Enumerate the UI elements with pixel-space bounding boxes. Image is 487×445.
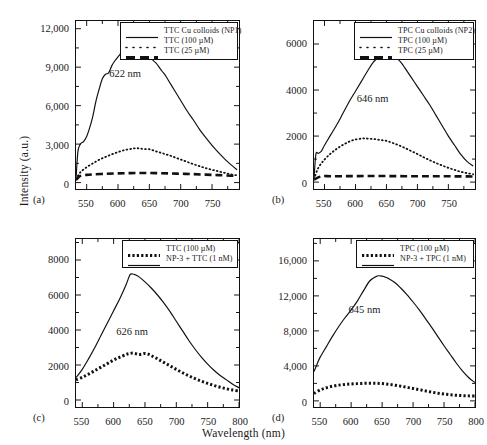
- legend-item: TPC Cu colloids (NP2): [359, 26, 468, 36]
- series-line: [76, 274, 239, 388]
- x-tick-label: 600: [343, 416, 359, 427]
- legend-item: NP-3 + TTC (1 nM): [127, 254, 232, 264]
- series-line: [314, 276, 475, 383]
- panel-label: (c): [33, 412, 45, 423]
- y-tick-label: 2000: [0, 360, 75, 371]
- series-line: [76, 353, 239, 391]
- x-tick-label: 550: [78, 198, 94, 209]
- legend-item: TTC (25 µM): [125, 46, 232, 56]
- x-tick-label: 600: [347, 198, 363, 209]
- y-tick-label: 3,000: [0, 139, 75, 150]
- legend-label: NP-3 + TTC (1 nM): [166, 254, 233, 264]
- legend-swatch-dotted-thick-icon: [361, 245, 395, 254]
- figure-x-axis-label: Wavelength (nm): [0, 427, 487, 439]
- legend-label: TTC (100 µM): [166, 244, 215, 254]
- legend: TTC (100 µM)NP-3 + TTC (1 nM): [122, 240, 238, 268]
- panel-label: (d): [272, 412, 284, 423]
- x-tick-label: 700: [410, 198, 426, 209]
- x-tick-label: 700: [173, 198, 189, 209]
- y-tick-label: 12,000: [0, 22, 75, 33]
- legend-label: TPC Cu colloids (NP2): [398, 26, 475, 36]
- y-tick-label: 6000: [0, 289, 75, 300]
- x-tick-label: 600: [105, 416, 121, 427]
- x-tick-label: 650: [137, 416, 153, 427]
- legend-swatch-dotted-icon: [359, 37, 393, 46]
- panel-label: (b): [272, 194, 284, 205]
- legend-label: TTC Cu colloids (NP1): [164, 26, 241, 36]
- legend-swatch-dotted-icon: [125, 37, 159, 46]
- legend-swatch-dashed-icon: [125, 47, 159, 56]
- legend-swatch-dotted-thick-icon: [127, 245, 161, 254]
- series-line: [76, 45, 237, 180]
- panel-label: (a): [33, 194, 45, 205]
- x-tick-label: 650: [374, 416, 390, 427]
- series-line: [314, 55, 473, 179]
- y-tick-label: 0: [0, 178, 75, 189]
- legend-swatch-solid-icon: [359, 27, 393, 36]
- x-tick-label: 550: [316, 198, 332, 209]
- x-tick-label: 800: [468, 416, 484, 427]
- x-tick-label: 750: [205, 198, 221, 209]
- figure-y-axis-label: Intensity (a.u.): [18, 101, 30, 241]
- legend-item: TPC (25 µM): [359, 46, 468, 56]
- x-tick-label: 600: [110, 198, 126, 209]
- legend-item: TTC Cu colloids (NP1): [125, 26, 232, 36]
- legend-swatch-solid-icon: [125, 27, 159, 36]
- x-tick-label: 650: [378, 198, 394, 209]
- y-tick-label: 6,000: [0, 100, 75, 111]
- legend-item: NP-3 + TPC (1 nM): [361, 254, 468, 264]
- legend-label: TPC (25 µM): [398, 46, 443, 56]
- series-line: [76, 173, 237, 180]
- legend-item: TTC (100 µM): [125, 36, 232, 46]
- figure-container: Intensity (a.u.) Wavelength (nm) 03,0006…: [0, 0, 487, 445]
- legend-swatch-dashed-icon: [359, 47, 393, 56]
- legend: TTC Cu colloids (NP1)TTC (100 µM)TTC (25…: [120, 22, 238, 60]
- legend-label: TTC (100 µM): [164, 36, 213, 46]
- legend-swatch-solid-icon: [361, 255, 395, 264]
- series-line: [314, 138, 473, 179]
- x-tick-label: 550: [73, 416, 89, 427]
- y-tick-label: 0: [0, 395, 75, 406]
- legend-label: NP-3 + TPC (1 nM): [400, 254, 466, 264]
- y-tick-label: 4000: [0, 325, 75, 336]
- legend-label: TPC (100 µM): [398, 36, 447, 46]
- x-tick-label: 700: [405, 416, 421, 427]
- legend: TPC (100 µM)NP-3 + TPC (1 nM): [356, 240, 474, 268]
- series-line: [314, 383, 475, 396]
- x-tick-label: 700: [169, 416, 185, 427]
- y-tick-label: 8000: [0, 254, 75, 265]
- legend-label: TPC (100 µM): [400, 244, 449, 254]
- series-line: [314, 176, 473, 180]
- x-tick-label: 550: [311, 416, 327, 427]
- legend-item: TTC (100 µM): [127, 244, 232, 254]
- x-tick-label: 750: [441, 198, 457, 209]
- legend-item: TPC (100 µM): [361, 244, 468, 254]
- x-tick-label: 800: [232, 416, 248, 427]
- legend-label: TTC (25 µM): [164, 46, 209, 56]
- y-tick-label: 9,000: [0, 61, 75, 72]
- legend-item: TPC (100 µM): [359, 36, 468, 46]
- legend: TPC Cu colloids (NP2)TPC (100 µM)TPC (25…: [354, 22, 474, 60]
- x-tick-label: 750: [200, 416, 216, 427]
- x-tick-label: 750: [437, 416, 453, 427]
- x-tick-label: 650: [141, 198, 157, 209]
- legend-swatch-solid-icon: [127, 255, 161, 264]
